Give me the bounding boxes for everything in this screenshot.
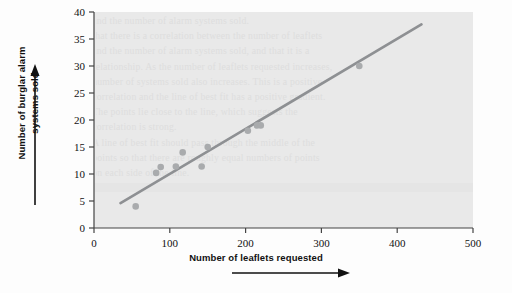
x-tick-label: 100 bbox=[162, 237, 179, 249]
data-point bbox=[198, 163, 205, 170]
data-point-group bbox=[132, 63, 362, 210]
y-tick-group: 0510152025303540 bbox=[74, 6, 94, 234]
data-point bbox=[356, 63, 363, 70]
x-tick-group: 0100200300400500 bbox=[91, 228, 482, 249]
x-tick-label: 200 bbox=[237, 237, 254, 249]
data-point bbox=[204, 144, 211, 151]
right-arrow-icon bbox=[232, 269, 350, 278]
scatter-chart-figure: and the number of alarm systems sold. th… bbox=[0, 0, 512, 293]
data-point bbox=[173, 163, 180, 170]
y-tick-label: 40 bbox=[74, 6, 86, 18]
y-tick-label: 35 bbox=[74, 33, 86, 45]
y-axis-label: Number of burglar alarm systems sold bbox=[15, 23, 41, 183]
trend-line bbox=[121, 24, 422, 203]
x-tick-label: 500 bbox=[465, 237, 482, 249]
x-tick-label: 300 bbox=[313, 237, 330, 249]
data-point bbox=[179, 149, 186, 156]
y-tick-label: 5 bbox=[80, 195, 86, 207]
y-tick-label: 25 bbox=[74, 87, 86, 99]
data-point bbox=[153, 170, 160, 177]
data-point bbox=[132, 203, 139, 210]
x-tick-label: 0 bbox=[91, 237, 97, 249]
y-tick-label: 10 bbox=[74, 168, 86, 180]
chart-svg: 0510152025303540 0100200300400500 bbox=[0, 0, 512, 293]
data-point bbox=[245, 128, 252, 135]
y-tick-label: 30 bbox=[74, 60, 86, 72]
x-tick-label: 400 bbox=[389, 237, 406, 249]
y-axis-label-line1: Number of burglar alarm bbox=[16, 46, 27, 159]
y-tick-label: 20 bbox=[74, 114, 86, 126]
y-tick-label: 0 bbox=[80, 222, 86, 234]
data-point bbox=[157, 164, 164, 171]
x-axis-label: Number of leaflets requested bbox=[0, 252, 512, 263]
data-point bbox=[257, 122, 264, 129]
y-tick-label: 15 bbox=[74, 141, 86, 153]
y-axis-label-line2: systems sold bbox=[29, 72, 40, 133]
